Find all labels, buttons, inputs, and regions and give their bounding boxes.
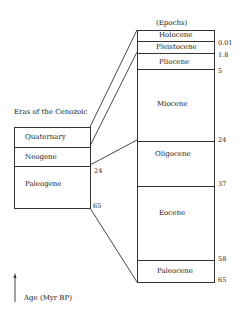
epoch-label: Holocene [159,32,193,39]
epoch-boundary-65: 65 [218,277,226,284]
epoch-label: Pliocene [159,59,189,66]
eras-title: Eras of the Cenozoic [14,109,87,116]
epoch-boundary-58: 58 [218,256,226,263]
epoch-boundary-24: 24 [218,137,226,144]
epochs-title: (Epochs) [156,20,187,27]
epoch-miocene: Miocene [138,69,214,141]
era-label: Neogene [25,154,57,161]
epoch-boundary-5: 5 [218,68,222,75]
era-boundary-65: 65 [93,203,101,210]
epoch-label: Eocene [159,210,185,217]
epoch-paleocene: Paleocene [138,260,214,283]
era-neogene: Neogene [15,147,90,166]
era-quaternary: Quaternary [15,128,90,147]
eras-box: Quaternary Neogene Paleogene [14,127,91,209]
era-paleogene: Paleogene [15,166,90,209]
age-arrow-icon [14,273,18,303]
epoch-boundary-37: 37 [218,181,226,188]
epoch-pleistocene: Pleistocene [138,41,214,53]
epoch-label: Oligocene [155,151,191,158]
epoch-holocene: Holocene [138,31,214,41]
epoch-oligocene: Oligocene [138,141,214,186]
epoch-label: Paleocene [157,268,193,275]
era-boundary-24: 24 [94,168,102,175]
era-label: Quaternary [25,134,66,141]
epoch-pliocene: Pliocene [138,53,214,69]
axis-label: Age (Myr BP) [24,295,72,302]
epoch-label: Pleistocene [156,44,197,51]
epoch-eocene: Eocene [138,186,214,260]
epoch-boundary-1-8: 1.8 [218,52,228,59]
era-label: Paleogene [25,181,61,188]
epochs-box: Holocene Pleistocene Pliocene Miocene Ol… [137,30,215,283]
epoch-boundary-0-01: 0.01 [218,40,232,47]
epoch-label: Miocene [157,101,187,108]
